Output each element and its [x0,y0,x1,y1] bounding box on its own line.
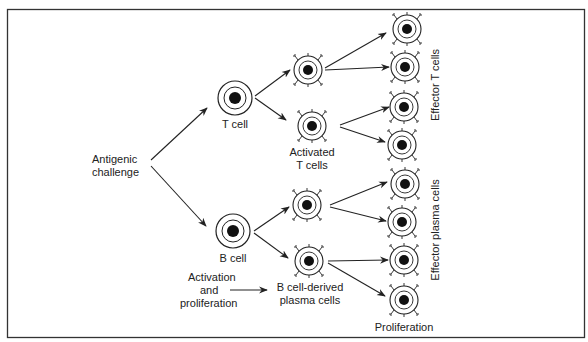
effector-t-cell-icon [392,12,422,46]
activated-t-cells-label: Activated T cells [280,146,344,172]
activated-b-cell-icon [292,188,322,222]
antigenic-challenge-label: Antigenic challenge [92,153,152,179]
effector-plasma-cells-label: Effector plasma cells [429,170,441,290]
label-line: T cells [280,159,344,172]
label-line: B cell-derived [268,281,352,294]
label-line: Activated [280,146,344,159]
label-line: Activation [180,271,252,284]
activated-t-cell-icon [293,53,323,87]
b-cell-label: B cell [208,252,258,265]
b-cell-icon [216,214,250,248]
effector-plasma-cell-icon [389,283,419,317]
effector-t-cells-label: Effector T cells [429,40,441,130]
label-line: challenge [92,166,152,179]
proliferation-label: Proliferation [364,321,444,334]
activation-proliferation-label: Activation and proliferation [180,271,252,310]
t-cell-icon [218,81,252,115]
b-cell-derived-plasma-label: B cell-derived plasma cells [268,281,352,307]
effector-t-cell-icon [390,50,420,84]
label-line: Antigenic [92,153,152,166]
arrows [151,33,389,296]
plasma-cell-icon [294,244,324,278]
label-line: plasma cells [268,294,352,307]
effector-plasma-cell-icon [387,205,417,239]
label-line: proliferation [180,297,252,310]
effector-t-cell-icon [389,90,419,124]
effector-plasma-cell-icon [390,167,420,201]
effector-t-cell-icon [387,128,417,162]
label-line: and [180,284,252,297]
effector-plasma-cell-icon [389,243,419,277]
t-cell-label: T cell [210,118,260,131]
activated-t-cell-icon [297,109,327,143]
